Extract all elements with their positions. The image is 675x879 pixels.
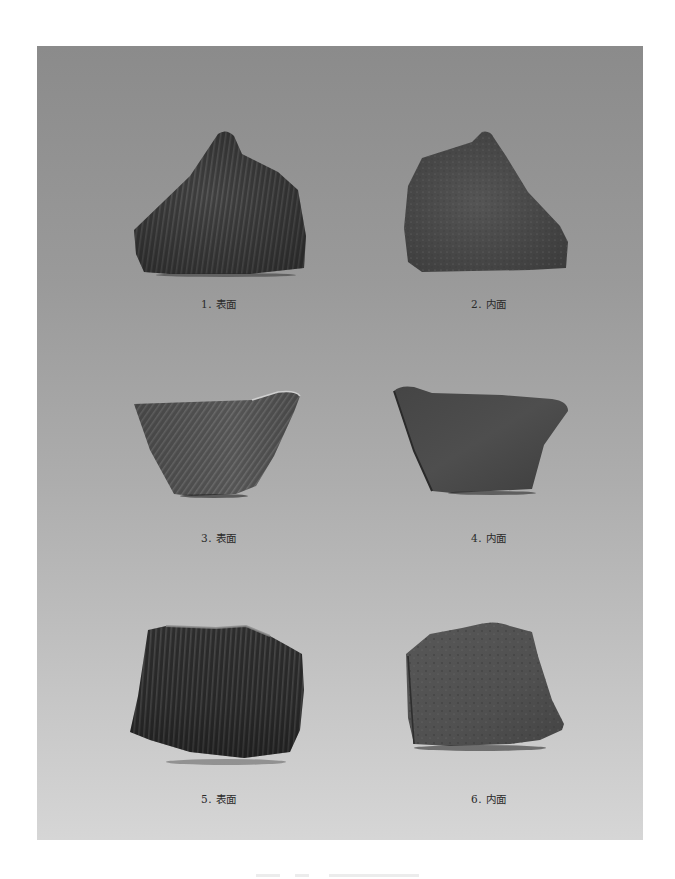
figure-label-6: 6. 内面	[429, 791, 549, 806]
fragment-1-exterior-image	[130, 128, 312, 276]
figure-label-2: 2. 内面	[429, 296, 549, 311]
figure-label-3: 3. 表面	[159, 530, 279, 545]
fragment-2-interior-image	[398, 130, 574, 274]
fragment-6-interior-image	[400, 620, 570, 750]
fragment-5-exterior-image	[126, 620, 316, 770]
figure-label-1: 1. 表面	[159, 296, 279, 311]
caption-text-placeholder	[329, 874, 419, 877]
plate-caption	[0, 866, 675, 879]
fragment-3-exterior-image	[132, 390, 302, 500]
fragment-4-interior-image	[392, 385, 572, 501]
caption-text-placeholder	[295, 874, 309, 877]
caption-text-placeholder	[256, 874, 280, 877]
figure-label-4: 4. 内面	[429, 530, 549, 545]
figure-label-5: 5. 表面	[159, 791, 279, 806]
